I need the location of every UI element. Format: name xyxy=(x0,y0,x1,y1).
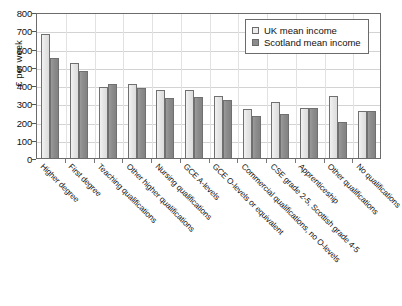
bar-scotland xyxy=(252,116,261,159)
x-axis-label: Other qualifications xyxy=(326,162,381,217)
legend-label-uk: UK mean income xyxy=(264,25,337,36)
bar-scotland xyxy=(367,111,376,159)
y-axis-tick-mark xyxy=(32,159,36,160)
y-axis-tick-label: 800 xyxy=(17,8,32,19)
chart-legend: UK mean income Scotland mean income xyxy=(245,19,369,54)
bar-uk xyxy=(243,109,252,159)
bar-group xyxy=(65,13,94,159)
bar-uk xyxy=(156,90,165,159)
bar-group xyxy=(122,13,151,159)
bar-group xyxy=(36,13,65,159)
legend-item-scotland: Scotland mean income xyxy=(252,37,361,48)
bar-uk xyxy=(41,34,50,159)
y-axis-tick-label: 200 xyxy=(17,117,32,128)
bar-uk xyxy=(271,102,280,159)
bar-group xyxy=(209,13,238,159)
legend-swatch-scotland-icon xyxy=(252,39,259,46)
bar-group xyxy=(180,13,209,159)
bar-scotland xyxy=(108,84,117,159)
bar-scotland xyxy=(137,88,146,159)
bar-scotland xyxy=(79,71,88,159)
bar-uk xyxy=(214,96,223,159)
bar-scotland xyxy=(194,97,203,159)
bar-uk xyxy=(185,90,194,159)
bar-uk xyxy=(99,87,108,159)
bar-uk xyxy=(300,108,309,159)
bar-uk xyxy=(70,63,79,159)
legend-swatch-uk-icon xyxy=(252,27,259,34)
bar-scotland xyxy=(338,122,347,159)
bar-uk xyxy=(329,96,338,159)
y-axis-tick-label: 100 xyxy=(17,135,32,146)
bar-scotland xyxy=(50,58,59,159)
bar-uk xyxy=(128,84,137,159)
bar-group xyxy=(151,13,180,159)
bar-scotland xyxy=(280,114,289,159)
x-axis-labels: Higher degreeFirst degreeTeaching qualif… xyxy=(36,162,381,306)
y-axis-title: £ per week xyxy=(13,24,24,104)
legend-label-scotland: Scotland mean income xyxy=(264,37,361,48)
bar-scotland xyxy=(165,98,174,159)
bar-group xyxy=(94,13,123,159)
bar-scotland xyxy=(309,108,318,159)
x-axis-label: Nursing qualifications xyxy=(153,162,213,222)
bar-scotland xyxy=(223,100,232,159)
bar-uk xyxy=(358,111,367,159)
legend-item-uk: UK mean income xyxy=(252,25,361,36)
